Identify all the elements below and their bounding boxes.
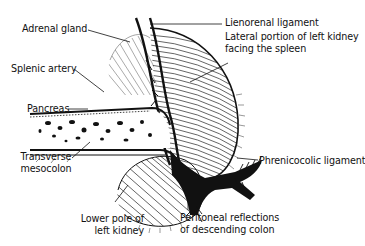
label-lateral-portion: Lateral portion of left kidney facing th… bbox=[225, 31, 359, 55]
label-lienorenal-ligament: Lienorenal ligament bbox=[225, 17, 319, 29]
label-transverse-mesocolon: Transverse mesocolon bbox=[20, 151, 72, 175]
leader-phrenicocolic bbox=[237, 158, 258, 160]
label-peritoneal-reflections: Peritoneal reflections of descending col… bbox=[180, 212, 279, 236]
leader-adrenal bbox=[88, 30, 130, 42]
label-lower-pole: Lower pole of left kidney bbox=[80, 213, 144, 237]
label-phrenicocolic-ligament: Phrenicocolic ligament bbox=[259, 155, 365, 167]
label-pancreas: Pancreas bbox=[27, 103, 69, 115]
label-adrenal-gland: Adrenal gland bbox=[22, 23, 87, 35]
leader-splenic-artery bbox=[74, 69, 104, 92]
label-splenic-artery: Splenic artery bbox=[11, 63, 77, 75]
